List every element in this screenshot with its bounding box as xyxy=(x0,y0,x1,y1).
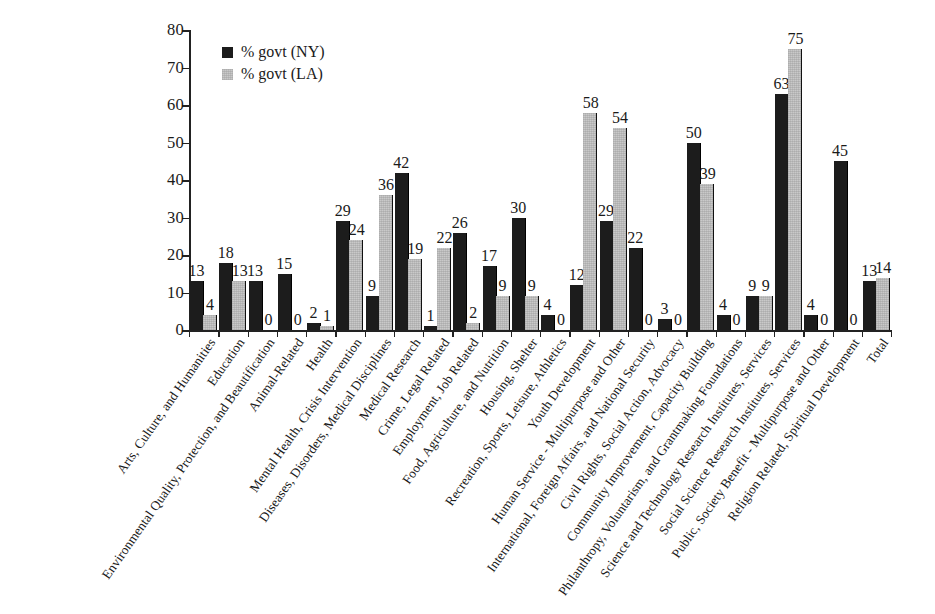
x-tick-mark xyxy=(774,330,775,337)
bar-value-la: 14 xyxy=(875,260,891,277)
bar-la: 36 xyxy=(379,195,393,330)
bar-la: 24 xyxy=(349,240,363,330)
bar-value-la: 75 xyxy=(787,31,803,48)
y-tick-label: 70 xyxy=(167,58,184,78)
bar-group: 2924 xyxy=(335,30,364,330)
x-tick-mark xyxy=(569,330,570,337)
bar-value-ny: 13 xyxy=(189,263,205,280)
bar-value-la: 9 xyxy=(762,278,770,295)
bar-group: 40 xyxy=(716,30,745,330)
x-tick-mark xyxy=(686,330,687,337)
bar-ny: 9 xyxy=(366,296,380,330)
bar-group: 134 xyxy=(189,30,218,330)
bar-la: 2 xyxy=(466,323,480,331)
bar-value-ny: 9 xyxy=(748,278,756,295)
bar-group: 4219 xyxy=(394,30,423,330)
bar-la: 75 xyxy=(788,49,802,330)
bar-group: 179 xyxy=(482,30,511,330)
bar-ny: 1 xyxy=(424,326,438,330)
bar-ny: 26 xyxy=(453,233,467,331)
bar-value-la: 58 xyxy=(583,95,599,112)
bar-value-la: 4 xyxy=(206,297,214,314)
legend-item-la: % govt (LA) xyxy=(222,63,325,85)
bar-value-la: 54 xyxy=(612,110,628,127)
bar-value-ny: 29 xyxy=(335,203,351,220)
bar-value-la: 0 xyxy=(674,312,682,329)
bar-value-ny: 4 xyxy=(544,297,552,314)
bar-value-la: 2 xyxy=(469,305,477,322)
bar-la: 4 xyxy=(203,315,217,330)
bar-value-la: 9 xyxy=(528,278,536,295)
bar-ny: 22 xyxy=(629,248,643,331)
bar-ny: 3 xyxy=(658,319,672,330)
bar-group: 220 xyxy=(628,30,657,330)
y-tick-label: 20 xyxy=(167,245,184,265)
bar-value-ny: 18 xyxy=(218,245,234,262)
bar-value-la: 19 xyxy=(407,241,423,258)
bar-group: 5039 xyxy=(686,30,715,330)
y-tick-label: 60 xyxy=(167,95,184,115)
bar-value-ny: 22 xyxy=(627,230,643,247)
bar-value-ny: 26 xyxy=(452,215,468,232)
x-tick-mark xyxy=(335,330,336,337)
legend-label-la: % govt (LA) xyxy=(241,65,323,83)
bar-ny: 45 xyxy=(834,161,848,330)
bar-value-ny: 4 xyxy=(807,297,815,314)
bar-group: 450 xyxy=(833,30,862,330)
bar-value-la: 39 xyxy=(700,166,716,183)
bar-ny: 9 xyxy=(746,296,760,330)
bar-ny: 30 xyxy=(512,218,526,331)
bar-value-la: 0 xyxy=(294,312,302,329)
bar-value-la: 24 xyxy=(349,222,365,239)
bar-group: 936 xyxy=(365,30,394,330)
bar-ny: 15 xyxy=(278,274,292,330)
x-tick-mark xyxy=(365,330,366,337)
x-tick-mark xyxy=(862,330,863,337)
bar-group: 6375 xyxy=(774,30,803,330)
bar-ny: 4 xyxy=(541,315,555,330)
x-tick-mark xyxy=(745,330,746,337)
bar-group: 40 xyxy=(803,30,832,330)
bar-la: 13 xyxy=(232,281,246,330)
x-tick-mark xyxy=(833,330,834,337)
legend-swatch-la-icon xyxy=(222,69,233,80)
bar-value-ny: 4 xyxy=(719,297,727,314)
bar-la: 19 xyxy=(408,259,422,330)
bar-value-la: 22 xyxy=(436,230,452,247)
bar-value-ny: 17 xyxy=(481,248,497,265)
bar-group: 40 xyxy=(540,30,569,330)
x-tick-mark xyxy=(218,330,219,337)
x-tick-mark xyxy=(803,330,804,337)
bar-group: 122 xyxy=(423,30,452,330)
bar-value-la: 0 xyxy=(264,312,272,329)
x-tick-mark xyxy=(540,330,541,337)
x-tick-mark xyxy=(628,330,629,337)
legend-label-ny: % govt (NY) xyxy=(241,43,325,61)
bar-value-ny: 2 xyxy=(310,305,318,322)
bar-la: 58 xyxy=(583,113,597,331)
x-tick-mark xyxy=(716,330,717,337)
bar-ny: 13 xyxy=(249,281,263,330)
bar-ny: 13 xyxy=(863,281,877,330)
y-tick-label: 0 xyxy=(176,320,184,340)
x-tick-mark xyxy=(452,330,453,337)
bar-value-la: 0 xyxy=(820,312,828,329)
bar-la: 9 xyxy=(525,296,539,330)
bar-la: 14 xyxy=(876,278,890,331)
bar-value-la: 0 xyxy=(557,312,565,329)
bar-ny: 4 xyxy=(717,315,731,330)
bar-group: 30 xyxy=(657,30,686,330)
bar-group: 2954 xyxy=(599,30,628,330)
bar-value-ny: 45 xyxy=(832,143,848,160)
x-tick-mark xyxy=(599,330,600,337)
bar-value-la: 9 xyxy=(498,278,506,295)
bar-la: 39 xyxy=(700,184,714,330)
x-tick-mark xyxy=(394,330,395,337)
x-tick-mark xyxy=(277,330,278,337)
bar-value-ny: 1 xyxy=(427,308,435,325)
bar-group: 309 xyxy=(511,30,540,330)
legend-swatch-ny-icon xyxy=(222,47,233,58)
x-tick-mark xyxy=(511,330,512,337)
bar-value-la: 1 xyxy=(323,308,331,325)
bar-group: 1258 xyxy=(569,30,598,330)
